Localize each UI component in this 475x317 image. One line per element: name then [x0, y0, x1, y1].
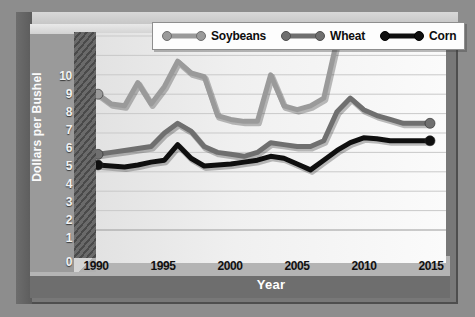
legend-swatch-corn: [379, 29, 425, 43]
y-tick-5: 5: [50, 159, 72, 173]
y-tick-3: 3: [50, 195, 72, 209]
y-axis-title: Dollars per Bushel: [30, 47, 44, 207]
axis-hatch-wall: [74, 32, 96, 264]
y-tick-8: 8: [50, 105, 72, 119]
y-tick-1: 1: [50, 231, 72, 245]
y-tick-7: 7: [50, 123, 72, 137]
legend-label-wheat: Wheat: [330, 29, 365, 43]
series-endpoint-marker: [96, 89, 103, 99]
x-axis-title: Year: [96, 277, 446, 292]
x-tick-1990: 1990: [73, 259, 119, 273]
series-endpoint-marker: [96, 160, 103, 170]
plot-area: [96, 33, 446, 263]
y-tick-10: 10: [50, 69, 72, 83]
y-tick-0: 0: [50, 255, 72, 269]
legend-item-corn[interactable]: Corn: [379, 29, 456, 43]
y-tick-9: 9: [50, 87, 72, 101]
x-tick-2010: 2010: [341, 259, 387, 273]
legend-item-wheat[interactable]: Wheat: [280, 29, 365, 43]
x-tick-1995: 1995: [140, 259, 186, 273]
legend-label-corn: Corn: [429, 29, 456, 43]
series-endpoint-marker: [425, 136, 435, 146]
gridlines: [96, 36, 446, 230]
chart-canvas: [96, 33, 446, 263]
x-tick-2000: 2000: [207, 259, 253, 273]
series-endpoint-marker: [96, 149, 103, 159]
series-line-shadow: [100, 38, 432, 123]
legend-swatch-soybeans: [161, 29, 207, 43]
legend-swatch-wheat: [280, 29, 326, 43]
y-tick-6: 6: [50, 141, 72, 155]
legend-item-soybeans[interactable]: Soybeans: [161, 29, 266, 43]
y-tick-4: 4: [50, 177, 72, 191]
data-series-layer: [96, 33, 435, 172]
legend-label-soybeans: Soybeans: [211, 29, 266, 43]
x-tick-2005: 2005: [274, 259, 320, 273]
chart-legend: Soybeans Wheat Corn: [152, 22, 465, 50]
series-endpoint-marker: [425, 118, 435, 128]
x-tick-2015: 2015: [408, 259, 454, 273]
chart-screenshot: Dollars per Bushel 10 9 8 7 6 5 4 3 2 1 …: [0, 0, 475, 317]
y-tick-2: 2: [50, 213, 72, 227]
